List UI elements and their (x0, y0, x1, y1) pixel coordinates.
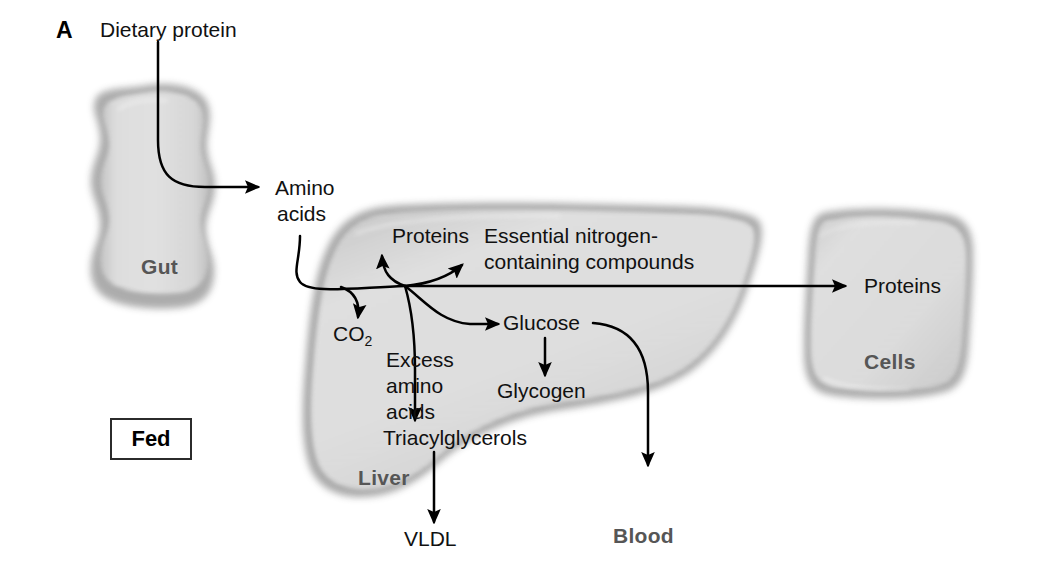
label-vldl: VLDL (404, 527, 457, 551)
label-proteins-liver: Proteins (392, 224, 469, 248)
state-label-text: Fed (131, 426, 170, 452)
label-co2-main: CO (333, 322, 365, 345)
label-glycogen: Glycogen (497, 379, 586, 403)
organ-label-gut: Gut (141, 255, 178, 279)
label-excess-amino-acids-line3: acids (386, 400, 435, 424)
organ-label-cells: Cells (864, 350, 916, 374)
label-glucose: Glucose (503, 311, 580, 335)
label-essential-nitrogen-line2: containing compounds (484, 250, 694, 274)
label-co2-subscript: 2 (365, 333, 373, 349)
label-triacylglycerols: Triacylglycerols (383, 426, 527, 450)
label-essential-nitrogen-line1: Essential nitrogen- (484, 224, 658, 248)
label-excess-amino-acids-line1: Excess (386, 348, 454, 372)
state-label-box: Fed (110, 418, 192, 460)
label-proteins-cells: Proteins (864, 274, 941, 298)
label-amino-acids-line1: Amino (275, 176, 335, 200)
organ-label-liver: Liver (358, 466, 410, 490)
label-dietary-protein: Dietary protein (100, 18, 237, 42)
label-co2: CO2 (333, 322, 372, 350)
label-excess-amino-acids-line2: amino (386, 374, 443, 398)
figure-canvas: A Dietary protein Amino acids Gut Protei… (0, 0, 1048, 588)
panel-letter: A (56, 18, 73, 44)
label-amino-acids-line2: acids (277, 202, 326, 226)
compartment-label-blood: Blood (613, 524, 674, 548)
